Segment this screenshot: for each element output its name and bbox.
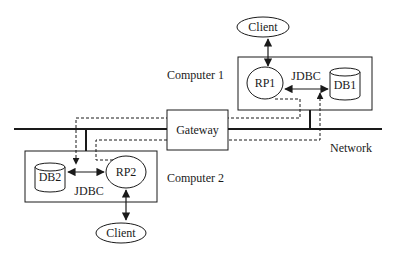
- db1-label: DB1: [334, 78, 357, 92]
- client-bottom-label: Client: [106, 226, 136, 240]
- gateway-label: Gateway: [176, 123, 219, 137]
- jdbc-label-bottom: JDBC: [74, 184, 103, 198]
- jdbc-label-top: JDBC: [291, 69, 320, 83]
- diagram-canvas: Gateway Client RP1 JDBC DB1 Computer 1 N…: [0, 0, 396, 257]
- network-label: Network: [330, 141, 372, 155]
- computer1-label: Computer 1: [167, 68, 224, 82]
- computer2-label: Computer 2: [167, 171, 224, 185]
- client-top-label: Client: [248, 20, 278, 34]
- rp2-label: RP2: [116, 165, 137, 179]
- rp1-label: RP1: [255, 76, 276, 90]
- db2-label: DB2: [39, 170, 62, 184]
